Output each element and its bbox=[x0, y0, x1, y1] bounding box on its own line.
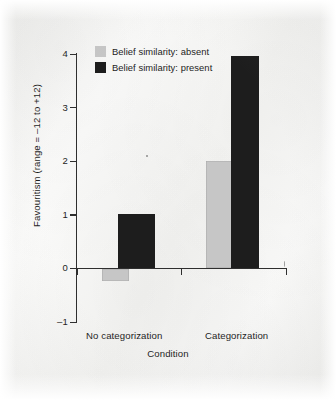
y-tick-minus-1 bbox=[70, 322, 76, 323]
scan-speck bbox=[146, 155, 148, 157]
y-tick-labels: 4 3 2 1 0 –1 bbox=[44, 0, 68, 400]
bar-no-categorization-present bbox=[118, 214, 155, 268]
x-tick-label-no-categorization: No categorization bbox=[86, 330, 162, 341]
y-tick-label-4: 4 bbox=[44, 48, 68, 59]
bar-categorization-absent bbox=[206, 161, 232, 268]
y-tick-2 bbox=[70, 161, 76, 162]
y-tick-label-2: 2 bbox=[44, 155, 68, 166]
y-tick-1 bbox=[70, 214, 76, 215]
x-tick-middle bbox=[181, 269, 182, 275]
y-tick-label-0: 0 bbox=[44, 262, 68, 273]
bar-categorization-present bbox=[231, 56, 259, 268]
y-tick-3 bbox=[70, 107, 76, 108]
y-tick-label-minus-1: –1 bbox=[44, 316, 68, 327]
y-tick-0 bbox=[70, 268, 76, 269]
legend-swatch-grey-icon bbox=[95, 46, 106, 57]
y-axis-title: Favouritism (range = –12 to +12) bbox=[31, 56, 42, 256]
x-axis-title: Condition bbox=[0, 348, 336, 359]
figure-root: 4 3 2 1 0 –1 Favouritism (range = –12 to… bbox=[0, 0, 336, 400]
legend-item-absent: Belief similarity: absent bbox=[95, 44, 212, 58]
y-tick-4 bbox=[70, 54, 76, 55]
x-tick-left-end bbox=[77, 269, 78, 275]
page-edge-right bbox=[320, 0, 336, 400]
y-axis-line bbox=[76, 53, 77, 323]
legend-item-present: Belief similarity: present bbox=[95, 60, 212, 74]
y-tick-label-1: 1 bbox=[44, 209, 68, 220]
bar-no-categorization-absent bbox=[102, 269, 129, 281]
page-edge-left bbox=[0, 0, 16, 400]
x-tick-right-end bbox=[286, 269, 287, 275]
x-tick-label-categorization: Categorization bbox=[205, 330, 268, 341]
legend-swatch-black-icon bbox=[95, 62, 106, 73]
legend-label-present: Belief similarity: present bbox=[112, 62, 212, 73]
legend-label-absent: Belief similarity: absent bbox=[112, 46, 209, 57]
legend: Belief similarity: absent Belief similar… bbox=[95, 44, 212, 76]
y-tick-label-3: 3 bbox=[44, 102, 68, 113]
scan-speck bbox=[284, 261, 285, 267]
